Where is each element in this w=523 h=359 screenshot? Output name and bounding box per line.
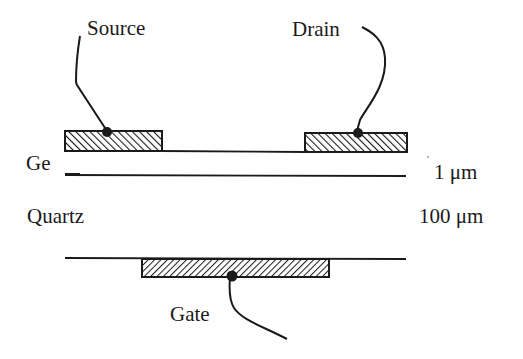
drain-label: Drain — [292, 17, 340, 41]
gate-label: Gate — [170, 302, 210, 326]
drain-wire — [357, 27, 385, 131]
fet-cross-section-diagram: Source Drain Ge 1 μm Quartz 100 μm Gate — [0, 0, 523, 359]
source-contact-dot — [102, 127, 112, 137]
ge-top-surface — [160, 151, 306, 152]
source-contact — [65, 131, 162, 151]
quartz-thickness-label: 100 μm — [419, 204, 483, 228]
source-label: Source — [87, 16, 145, 40]
gate-contact-dot — [227, 271, 238, 282]
quartz-layer-label: Quartz — [27, 204, 84, 228]
ge-thickness-label: 1 μm — [434, 160, 477, 184]
ge-bottom-boundary — [65, 175, 406, 176]
drain-contact-dot — [353, 128, 363, 138]
tick-mark — [427, 156, 429, 158]
ge-layer-label: Ge — [26, 151, 51, 175]
gate-wire — [229, 278, 287, 339]
source-wire — [76, 36, 107, 131]
